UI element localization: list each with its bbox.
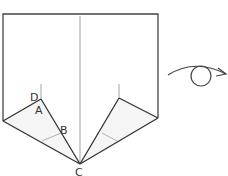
label-d: D [30,91,38,104]
paper-outline [3,14,158,121]
origami-diagram: D A B C [0,0,228,176]
label-a: A [35,104,43,117]
right-flap [80,98,158,164]
turn-over-icon [168,66,226,86]
label-c: C [75,166,83,176]
label-b: B [60,124,68,137]
